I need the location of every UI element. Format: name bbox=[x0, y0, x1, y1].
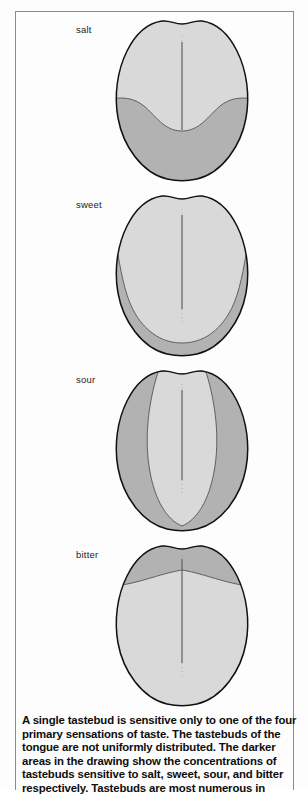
caption-line: tongue are not uniformly distributed. Th… bbox=[22, 741, 290, 755]
panel-label-salt: salt bbox=[76, 24, 92, 35]
tongue-panel-salt: salt bbox=[16, 12, 293, 187]
tongue-diagram-stack: salt bbox=[16, 12, 293, 712]
panel-label-sour: sour bbox=[76, 374, 95, 385]
caption-line: primary sensations of taste. The tastebu… bbox=[22, 728, 290, 742]
caption-line: areas in the drawing show the concentrat… bbox=[22, 755, 290, 769]
tongue-diagram-salt bbox=[112, 18, 252, 184]
caption-line: tastebuds sensitive to salt, sweet, sour… bbox=[22, 768, 290, 782]
figure-caption: A single tastebud is sensitive only to o… bbox=[22, 714, 290, 796]
tongue-panel-sweet: sweet bbox=[16, 187, 293, 362]
panel-label-sweet: sweet bbox=[76, 199, 102, 210]
tongue-diagram-bitter bbox=[112, 543, 252, 709]
tongue-panel-sour: sour bbox=[16, 362, 293, 537]
caption-line: respectively. Tastebuds are most numerou… bbox=[22, 782, 290, 796]
panel-label-bitter: bitter bbox=[76, 549, 98, 560]
tongue-panel-bitter: bitter bbox=[16, 537, 293, 712]
caption-line: A single tastebud is sensitive only to o… bbox=[22, 714, 290, 728]
tongue-diagram-sweet bbox=[112, 193, 252, 359]
tongue-diagram-sour bbox=[112, 368, 252, 534]
